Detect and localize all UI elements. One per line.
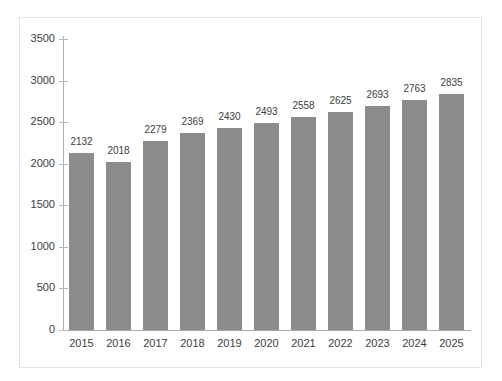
- y-axis-tick-label-text: 2500: [11, 116, 55, 127]
- bar[interactable]: [180, 133, 205, 330]
- y-axis-tick-label: 1000: [8, 241, 55, 252]
- y-axis-tick-label: 1500: [8, 199, 55, 210]
- y-axis-tick-label-text: 3000: [11, 75, 55, 86]
- y-axis-tick-label: 2000: [8, 158, 55, 169]
- y-axis-tick-label-text: 0: [11, 324, 55, 335]
- bar[interactable]: [365, 106, 390, 330]
- bar-chart-figure: 0500100015002000250030003500 21322018227…: [0, 0, 502, 381]
- y-axis-tick-label: 2500: [8, 116, 55, 127]
- bar[interactable]: [69, 153, 94, 330]
- y-axis-tick-label-text: 1000: [11, 241, 55, 252]
- bar-value-label: 2018: [95, 146, 143, 156]
- bar[interactable]: [328, 112, 353, 330]
- bar[interactable]: [439, 94, 464, 330]
- bar[interactable]: [402, 100, 427, 330]
- x-axis-line: [63, 330, 471, 331]
- y-axis-tick-label: 500: [8, 282, 55, 293]
- y-axis-tick-label-text: 2000: [11, 158, 55, 169]
- y-axis-tick-label: 3500: [8, 33, 55, 44]
- y-axis-tick-label-text: 3500: [11, 33, 55, 44]
- y-axis-tick-label-text: 500: [11, 282, 55, 293]
- bar-value-label: 2835: [428, 78, 476, 88]
- bar[interactable]: [254, 123, 279, 330]
- y-axis-tick-label-text: 1500: [11, 199, 55, 210]
- bar[interactable]: [217, 128, 242, 330]
- bar[interactable]: [291, 117, 316, 330]
- y-axis-tick-label: 3000: [8, 75, 55, 86]
- x-axis-tick-label: 2025: [428, 337, 476, 349]
- y-axis-tick-mark: [59, 330, 68, 331]
- bar[interactable]: [106, 162, 131, 330]
- y-axis-tick-label: 0: [8, 324, 55, 335]
- bar[interactable]: [143, 141, 168, 330]
